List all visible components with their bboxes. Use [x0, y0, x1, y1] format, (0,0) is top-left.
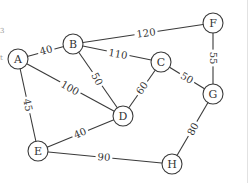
- cropped-text-fragment: t: [0, 54, 3, 62]
- node-d: D: [113, 106, 133, 126]
- node-label: G: [209, 88, 218, 101]
- edge-weight-label: 40: [36, 42, 55, 58]
- edge-weight-label: 45: [20, 96, 35, 115]
- edge-weight-label: 50: [88, 69, 106, 89]
- edge-weight-label: 60: [132, 78, 151, 99]
- node-label: C: [157, 56, 165, 69]
- edge-weight-label: 50: [177, 69, 198, 88]
- node-e: E: [28, 141, 48, 161]
- node-label: D: [119, 110, 128, 123]
- node-label: E: [34, 145, 42, 158]
- node-c: C: [151, 52, 171, 72]
- edge-weight-text: 110: [108, 47, 129, 61]
- node-label: A: [13, 53, 23, 66]
- edge-weight-label: 55: [207, 50, 219, 67]
- edge-weight-text: 55: [208, 52, 219, 65]
- edge-weight-label: 80: [184, 119, 202, 139]
- node-label: H: [167, 158, 177, 171]
- edge-weight-label: 120: [134, 25, 159, 40]
- edge-weight-label: 90: [95, 150, 113, 163]
- edge-weight-text: 90: [97, 151, 111, 163]
- edge-labels-layer: 401201105010060505545409080: [20, 25, 219, 163]
- cropped-text-fragment: 3: [0, 27, 4, 35]
- node-b: B: [63, 34, 83, 54]
- node-f: F: [203, 13, 223, 33]
- edge-weight-label: 100: [57, 77, 83, 99]
- node-a: A: [8, 49, 28, 69]
- node-label: B: [69, 38, 77, 51]
- node-h: H: [162, 154, 182, 174]
- node-g: G: [203, 84, 223, 104]
- edge-weight-label: 110: [106, 46, 131, 62]
- edge-weight-label: 40: [70, 124, 90, 141]
- weighted-graph-diagram: 3 t 401201105010060505545409080 ABCDEFGH: [0, 0, 251, 183]
- node-label: F: [209, 17, 217, 30]
